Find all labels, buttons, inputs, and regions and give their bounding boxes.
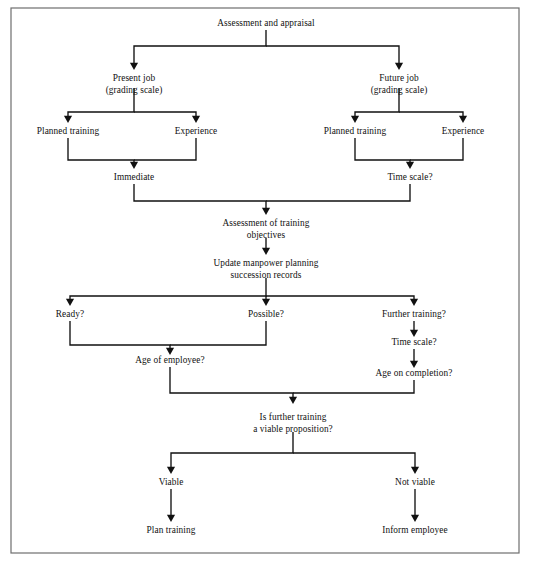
edge-connector-line xyxy=(266,296,414,300)
node-label-line: Is further training xyxy=(259,412,326,422)
node-planned-training-present: Planned training xyxy=(37,126,100,136)
arrow-head-icon xyxy=(411,467,419,474)
edge-age-of-employee-to-is-further-training-viable xyxy=(170,367,297,404)
node-inform-employee: Inform employee xyxy=(382,525,447,535)
edge-time-scale-upper-to-assessment-of-training-objectives xyxy=(266,184,410,201)
edge-connector-line xyxy=(410,138,463,160)
node-label-line: Inform employee xyxy=(382,525,447,535)
node-future-job: Future job(grading scale) xyxy=(371,73,428,96)
edge-is-further-training-viable-to-viable xyxy=(167,432,293,474)
node-label-line: Viable xyxy=(159,477,184,487)
arrow-head-icon xyxy=(410,299,418,306)
arrow-head-icon xyxy=(130,63,138,70)
node-label-line: Present job xyxy=(113,73,156,83)
node-experience-future: Experience xyxy=(442,126,485,136)
edge-present-job-to-experience xyxy=(134,112,200,123)
node-ready: Ready? xyxy=(56,309,84,319)
edge-age-on-completion-to-is-further-training-viable xyxy=(293,380,414,393)
node-label-line: Plan training xyxy=(147,525,196,535)
edge-connector-line xyxy=(134,184,266,209)
node-label-line: Planned training xyxy=(324,126,387,136)
arrow-head-icon xyxy=(395,63,403,70)
node-label-line: objectives xyxy=(247,230,286,240)
nodes-layer: Assessment and appraisalPresent job(grad… xyxy=(37,18,485,535)
edge-connector-line xyxy=(134,138,196,160)
edge-connector-line xyxy=(293,380,414,393)
arrow-head-icon xyxy=(167,467,175,474)
node-label-line: succession records xyxy=(231,270,302,280)
edge-immediate-to-assessment-of-training-objectives xyxy=(134,184,270,215)
edge-assessment-and-appraisal-to-present-job xyxy=(130,30,266,70)
node-plan-training: Plan training xyxy=(147,525,196,535)
edge-connector-line xyxy=(170,321,266,345)
node-planned-training-future: Planned training xyxy=(324,126,387,136)
edge-connector-line xyxy=(70,278,266,300)
node-assessment-and-appraisal: Assessment and appraisal xyxy=(217,18,315,28)
node-age-of-employee: Age of employee? xyxy=(135,355,204,365)
node-label-line: Update manpower planning xyxy=(213,258,318,268)
node-label-line: Assessment and appraisal xyxy=(217,18,315,28)
edge-update-manpower-planning-to-further-training xyxy=(266,296,418,306)
node-label-line: Experience xyxy=(442,126,485,136)
edge-connector-line xyxy=(68,138,134,163)
node-label-line: a viable proposition? xyxy=(253,424,333,434)
edge-assessment-of-training-objectives-to-update-manpower-planning xyxy=(262,238,270,255)
edge-viable-to-plan-training xyxy=(167,489,175,522)
arrow-head-icon xyxy=(64,116,72,123)
node-experience-present: Experience xyxy=(175,126,218,136)
node-time-scale-upper: Time scale? xyxy=(387,172,432,182)
node-label-line: Ready? xyxy=(56,309,84,319)
edge-connector-line xyxy=(399,112,463,117)
edge-planned-training-future-to-time-scale xyxy=(355,138,414,169)
arrow-head-icon xyxy=(411,515,419,522)
edge-assessment-and-appraisal-to-future-job xyxy=(266,46,403,70)
edge-possible-to-age-of-employee xyxy=(170,321,266,345)
node-age-on-completion: Age on completion? xyxy=(376,368,453,378)
node-label-line: Not viable xyxy=(395,477,435,487)
arrow-head-icon xyxy=(410,330,418,337)
flowchart-canvas: Assessment and appraisalPresent job(grad… xyxy=(0,0,535,567)
edge-connector-line xyxy=(266,46,399,64)
arrow-head-icon xyxy=(262,208,270,215)
edge-update-manpower-planning-to-possible xyxy=(262,296,270,306)
node-immediate: Immediate xyxy=(114,172,154,182)
arrow-head-icon xyxy=(262,248,270,255)
edge-connector-line xyxy=(266,184,410,201)
edge-experience-future-to-time-scale xyxy=(410,138,463,160)
arrow-head-icon xyxy=(166,348,174,355)
arrow-head-icon xyxy=(130,162,138,169)
node-present-job: Present job(grading scale) xyxy=(106,73,163,96)
arrow-head-icon xyxy=(289,397,297,404)
node-is-further-training-viable: Is further traininga viable proposition? xyxy=(253,412,333,434)
node-not-viable: Not viable xyxy=(395,477,435,487)
arrow-head-icon xyxy=(406,162,414,169)
arrow-head-icon xyxy=(351,116,359,123)
arrow-head-icon xyxy=(167,515,175,522)
node-label-line: Age on completion? xyxy=(376,368,453,378)
node-time-scale-lower: Time scale? xyxy=(391,337,436,347)
arrow-head-icon xyxy=(192,116,200,123)
node-label-line: Further training? xyxy=(382,309,446,319)
edge-is-further-training-viable-to-not-viable xyxy=(293,453,419,474)
edge-ready-to-age-of-employee xyxy=(70,321,174,355)
node-label-line: Experience xyxy=(175,126,218,136)
edge-experience-present-to-immediate xyxy=(134,138,196,160)
edge-connector-line xyxy=(355,138,410,163)
edge-connector-line xyxy=(134,30,266,64)
node-label-line: Time scale? xyxy=(391,337,436,347)
flowchart-diagram: Assessment and appraisalPresent job(grad… xyxy=(0,0,535,567)
edge-connector-line xyxy=(134,112,196,117)
edge-connector-line xyxy=(70,321,170,349)
node-viable: Viable xyxy=(159,477,184,487)
edge-connector-line xyxy=(171,432,293,468)
edge-future-job-to-experience xyxy=(399,112,467,123)
edge-not-viable-to-inform-employee xyxy=(411,489,419,522)
edge-further-training-to-time-scale-lower xyxy=(410,321,418,337)
edge-time-scale-lower-to-age-on-completion xyxy=(410,349,418,368)
node-label-line: Planned training xyxy=(37,126,100,136)
node-assessment-of-training-objectives: Assessment of trainingobjectives xyxy=(223,218,310,240)
node-label-line: (grading scale) xyxy=(371,85,428,96)
edge-update-manpower-planning-to-ready xyxy=(66,278,266,306)
node-update-manpower-planning: Update manpower planningsuccession recor… xyxy=(213,258,318,280)
arrow-head-icon xyxy=(459,116,467,123)
